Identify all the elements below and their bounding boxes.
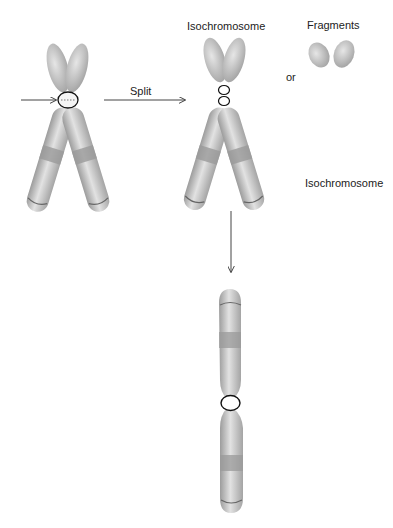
band-upper: [219, 332, 241, 348]
isochromosome: [219, 289, 243, 513]
isochromosome-top-label: Isochromosome: [187, 21, 265, 32]
or-label: or: [286, 72, 296, 83]
centromere-upper: [219, 86, 230, 95]
centromere: [221, 396, 240, 411]
band-lower: [220, 455, 243, 471]
isochromosome-right-label: Isochromosome: [305, 178, 383, 189]
centromere-lower: [219, 97, 230, 106]
diagram-canvas: [0, 0, 393, 528]
fragments: [304, 37, 358, 71]
fragments-label: Fragments: [307, 20, 360, 31]
split-chromosome: [181, 35, 267, 213]
fragment-left: [304, 39, 333, 71]
normal-chromosome: [24, 41, 112, 214]
split-label: Split: [130, 86, 151, 97]
fragment-right: [330, 37, 358, 70]
